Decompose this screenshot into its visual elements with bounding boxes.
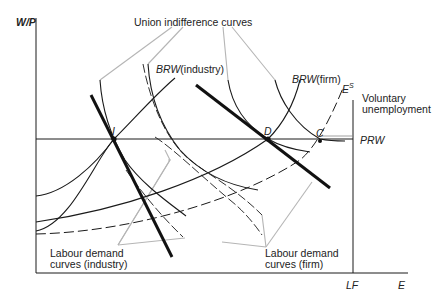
point-d-label: D [264,126,272,137]
point-i-label: I [112,126,115,137]
brw-firm-label-rest: (firm) [316,73,341,85]
brw-industry-label: BRW(industry) [156,64,224,75]
point-d-dot [265,136,270,141]
y-axis-label: W/P [16,17,36,28]
ld-firm-label-line2: curves (firm) [265,259,323,270]
x-axis-label: E [398,280,405,291]
brw-industry-label-italic: BRW [156,63,180,75]
lf-label: LF [346,280,358,291]
brw-lower-curve [36,139,114,196]
point-i-dot [111,136,116,141]
labour-demand-thin-curves [126,64,262,237]
point-c-dot [318,139,322,143]
point-c-label: C [316,128,324,139]
ld-industry-label-line2: curves (industry) [50,259,128,270]
es-sup: S [349,82,354,89]
brw-firm-curve [36,80,300,222]
brw-firm-label: BRW(firm) [292,74,341,85]
brw-industry-label-rest: (industry) [180,63,224,75]
es-label: E [342,83,349,95]
labour-supply-label: ES [342,80,354,95]
prw-label: PRW [360,135,384,146]
labour-demand-firm-thick [196,85,330,188]
brw-firm-label-italic: BRW [292,73,316,85]
voluntary-unemployment-label-line2: unemployment [362,104,431,115]
union-indifference-label: Union indifference curves [134,17,252,28]
